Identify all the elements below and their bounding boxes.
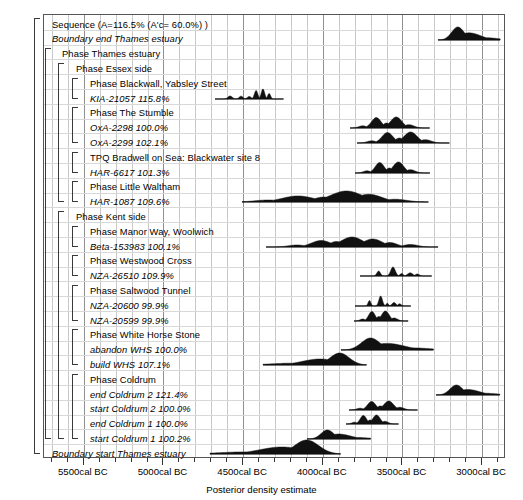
posterior-density-curve xyxy=(341,338,433,350)
row-label-date: start Coldrum 1 100.2% xyxy=(90,433,191,444)
posterior-density-curve xyxy=(349,401,418,410)
group-bracket xyxy=(58,211,59,439)
row-label-date: abandon WHS 100.0% xyxy=(90,344,187,355)
row-label-date: OxA-2298 100.0% xyxy=(90,122,168,133)
row-label-phase: Phase Blackwall, Yabsley Street xyxy=(90,77,227,88)
row-label-date: NZA-20600 99.9% xyxy=(90,299,169,310)
posterior-density-curve xyxy=(210,440,341,454)
x-axis xyxy=(43,458,505,466)
posterior-density-curve xyxy=(436,385,500,395)
row-label-phase: Phase Westwood Cross xyxy=(90,255,192,266)
axis-tick-minor xyxy=(370,458,371,462)
row-label-boundary: Boundary end Thames estuary xyxy=(52,33,183,44)
oxcal-chronological-model: Sequence (A=116.5% (A'c= 60.0%) )Boundar… xyxy=(0,0,523,500)
row-label-date: OxA-2299 102.1% xyxy=(90,137,168,148)
posterior-density-curve xyxy=(307,430,371,439)
posterior-density-curve xyxy=(242,191,428,202)
row-label-date: HAR-6617 101.3% xyxy=(90,166,170,177)
axis-tick-minor xyxy=(417,458,418,462)
axis-tick-major xyxy=(162,458,163,465)
axis-tick-minor xyxy=(99,458,100,462)
row-label-phase: Phase The Stumble xyxy=(90,107,174,118)
posterior-density-curve xyxy=(263,353,367,365)
axis-tick-minor xyxy=(147,458,148,462)
axis-tick-minor xyxy=(497,458,498,462)
row-label-phase: Phase Essex side xyxy=(76,63,152,74)
row-label-phase: Phase Saltwood Tunnel xyxy=(90,285,191,296)
axis-tick-minor xyxy=(465,458,466,462)
posterior-density-curve xyxy=(355,162,430,173)
group-bracket xyxy=(72,374,73,439)
group-bracket xyxy=(72,255,73,276)
x-axis-title: Posterior density estimate xyxy=(0,484,523,495)
group-bracket xyxy=(58,63,59,202)
axis-tick-major xyxy=(83,458,84,465)
group-bracket xyxy=(72,226,73,247)
group-bracket xyxy=(72,107,73,143)
row-label-date: end Coldrum 2 121.4% xyxy=(90,388,188,399)
group-bracket xyxy=(72,78,73,99)
axis-tick-minor xyxy=(338,458,339,462)
axis-tick-minor xyxy=(449,458,450,462)
axis-tick-major xyxy=(322,458,323,465)
axis-tick-major xyxy=(481,458,482,465)
axis-tick-minor xyxy=(306,458,307,462)
row-label-date: build WHS 107.1% xyxy=(90,359,170,370)
axis-tick-minor xyxy=(386,458,387,462)
row-label-phase: Phase Thames estuary xyxy=(62,48,160,59)
axis-tick-minor xyxy=(115,458,116,462)
posterior-density-curve xyxy=(357,132,449,143)
row-label-phase: Phase Coldrum xyxy=(90,373,156,384)
axis-tick-minor xyxy=(274,458,275,462)
axis-tick-major xyxy=(242,458,243,465)
axis-tick-minor xyxy=(226,458,227,462)
row-label-date: NZA-20599 99.9% xyxy=(90,314,169,325)
axis-tick-minor xyxy=(210,458,211,462)
posterior-density-curve xyxy=(354,311,408,321)
row-label-sequence: Sequence (A=116.5% (A'c= 60.0%) ) xyxy=(52,18,208,29)
axis-tick-minor xyxy=(354,458,355,462)
row-label-date: KIA-21057 115.8% xyxy=(90,92,170,103)
group-bracket xyxy=(72,181,73,202)
row-label-phase: Phase Kent side xyxy=(76,211,146,222)
axis-tick-label: 4500cal BC xyxy=(217,466,267,477)
axis-tick-label: 5000cal BC xyxy=(138,466,188,477)
row-label-phase: Phase Manor Way, Woolwich xyxy=(90,225,214,236)
axis-tick-minor xyxy=(178,458,179,462)
row-label-boundary: Boundary start Thames estuary xyxy=(52,447,186,458)
posterior-density-curve xyxy=(350,117,430,128)
posterior-density-curve xyxy=(355,296,411,306)
posterior-density-curve xyxy=(346,415,399,424)
axis-tick-minor xyxy=(131,458,132,462)
group-bracket xyxy=(72,285,73,321)
posterior-density-curve xyxy=(266,237,438,247)
row-label-date: Beta-153983 100.1% xyxy=(90,240,180,251)
axis-tick-label: 4000cal BC xyxy=(297,466,347,477)
axis-tick-minor xyxy=(194,458,195,462)
row-label-phase: Phase Little Waltham xyxy=(90,181,180,192)
axis-tick-label: 5500cal BC xyxy=(58,466,108,477)
group-bracket xyxy=(45,48,46,439)
row-label-date: end Coldrum 1 100.0% xyxy=(90,418,188,429)
group-bracket xyxy=(72,152,73,173)
row-label-date: NZA-26510 109.9% xyxy=(90,270,174,281)
axis-tick-minor xyxy=(433,458,434,462)
axis-tick-minor xyxy=(67,458,68,462)
axis-tick-label: 3000cal BC xyxy=(456,466,506,477)
group-bracket xyxy=(34,18,35,453)
row-label-date: HAR-1087 109.6% xyxy=(90,196,170,207)
posterior-density-curve xyxy=(360,267,432,276)
axis-tick-minor xyxy=(258,458,259,462)
posterior-density-curve xyxy=(215,89,284,99)
axis-tick-label: 3500cal BC xyxy=(377,466,427,477)
row-label-phase: TPQ Bradwell on Sea: Blackwater site 8 xyxy=(90,151,260,162)
group-bracket xyxy=(72,329,73,365)
axis-tick-minor xyxy=(51,458,52,462)
axis-tick-minor xyxy=(290,458,291,462)
axis-tick-major xyxy=(401,458,402,465)
posterior-density-curve xyxy=(438,27,500,40)
row-label-date: start Coldrum 2 100.0% xyxy=(90,403,191,414)
row-label-phase: Phase White Horse Stone xyxy=(90,329,200,340)
